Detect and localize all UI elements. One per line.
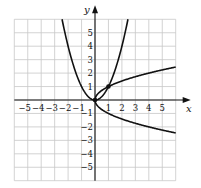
y-tick-label: −2 <box>80 122 93 132</box>
x-tick-label: −5 <box>18 103 31 113</box>
x-tick-label: 2 <box>119 103 124 113</box>
x-tick-label: 1 <box>106 103 111 113</box>
intersection-point <box>106 84 111 89</box>
x-axis-label: x <box>186 103 192 114</box>
y-tick-label: −5 <box>80 162 93 172</box>
y-tick-label: 3 <box>88 55 93 65</box>
x-tick-label: −2 <box>59 103 72 113</box>
graph-figure: −5−4−3−2−112345−5−4−3−2−112345 x y <box>0 0 201 188</box>
x-tick-label: −3 <box>45 103 58 113</box>
y-tick-label: −1 <box>80 108 93 118</box>
x-tick-label: 4 <box>146 103 151 113</box>
x-tick-label: −4 <box>32 103 45 113</box>
x-tick-label: 5 <box>160 103 165 113</box>
axes <box>14 5 190 180</box>
x-tick-label: 3 <box>133 103 138 113</box>
y-tick-label: −4 <box>80 149 93 159</box>
intersection-point <box>93 98 98 103</box>
curves <box>62 19 176 133</box>
y-tick-label: −3 <box>80 135 93 145</box>
y-axis-label: y <box>83 4 90 15</box>
y-tick-label: 1 <box>88 82 93 92</box>
y-tick-label: 2 <box>88 68 93 78</box>
y-tick-label: 5 <box>88 28 93 38</box>
y-tick-label: 4 <box>88 41 93 51</box>
